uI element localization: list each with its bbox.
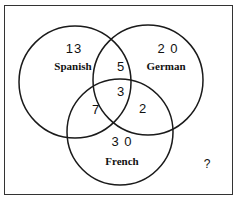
- french-only-count: 3 0: [111, 134, 132, 149]
- french-label: French: [105, 155, 138, 167]
- spanish-label: Spanish: [54, 60, 91, 72]
- outside-unknown-count: ?: [204, 157, 211, 171]
- spanish-only-count: 13: [66, 41, 82, 56]
- spanish-german-count: 5: [117, 59, 125, 74]
- german-label: German: [146, 60, 185, 72]
- german-only-count: 2 0: [157, 41, 178, 56]
- venn-diagram: [0, 0, 240, 202]
- spanish-french-count: 7: [92, 102, 100, 117]
- german-french-count: 2: [139, 101, 147, 116]
- all-three-count: 3: [117, 84, 125, 99]
